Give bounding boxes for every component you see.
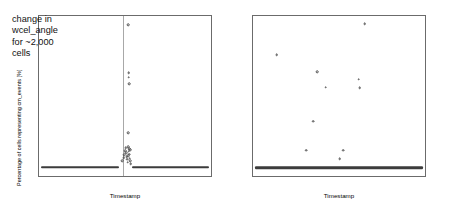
plot-inner-left: 024602/01/201302/08/201302/15/201302/22/… — [39, 16, 211, 176]
panel-cm-events: Percentage of cells representing cm_even… — [0, 0, 226, 214]
data-point — [128, 153, 131, 156]
baseline-series-left — [41, 166, 119, 168]
data-point — [312, 120, 315, 123]
plot-area-left: 024602/01/201302/08/201302/15/201302/22/… — [38, 15, 212, 177]
data-point — [128, 83, 131, 86]
plot-inner-right: 0.00.10.20.302/01/201302/08/201302/15/20… — [253, 16, 425, 176]
y-axis-title-left: Percentage of cells representing cm_even… — [16, 70, 22, 186]
data-point — [276, 53, 279, 56]
data-point — [121, 160, 124, 163]
data-point — [127, 145, 130, 148]
data-point — [129, 163, 132, 166]
data-point — [358, 78, 361, 81]
x-axis-title-right: Timestamp — [253, 192, 425, 199]
data-point — [305, 149, 308, 152]
baseline-series-left — [132, 166, 209, 168]
data-point — [316, 70, 319, 73]
data-point — [129, 149, 132, 152]
annotation-text: change in wcel_angle for ~2,000 cells — [12, 14, 58, 60]
data-point — [324, 86, 327, 89]
baseline-series-right — [255, 166, 423, 168]
data-point — [342, 149, 345, 152]
data-point — [338, 158, 341, 161]
data-point — [127, 132, 130, 135]
data-point — [358, 87, 361, 90]
data-point — [127, 76, 130, 79]
data-point — [127, 24, 130, 27]
figure: Percentage of cells representing cm_even… — [0, 0, 452, 214]
data-point — [127, 71, 130, 74]
x-axis-title-left: Timestamp — [39, 192, 211, 199]
panel-weather-events: Percentage of cells representing weather… — [226, 0, 452, 214]
data-point — [364, 22, 367, 25]
plot-area-right: 0.00.10.20.302/01/201302/08/201302/15/20… — [252, 15, 426, 177]
